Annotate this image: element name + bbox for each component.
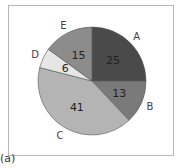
slice-category-label: B <box>146 101 153 112</box>
slice-category-label: A <box>133 31 140 42</box>
slice-value-label: 41 <box>70 101 84 114</box>
pie-chart: 25A13B41C6D15E <box>0 0 185 168</box>
slice-category-label: D <box>31 49 39 60</box>
slice-value-label: 13 <box>112 87 126 100</box>
slice-value-label: 6 <box>62 62 69 75</box>
slice-category-label: E <box>60 20 66 31</box>
figure-caption: (a) <box>0 152 15 165</box>
slice-category-label: C <box>56 130 63 141</box>
slice-value-label: 25 <box>106 54 120 67</box>
slice-value-label: 15 <box>72 49 86 62</box>
